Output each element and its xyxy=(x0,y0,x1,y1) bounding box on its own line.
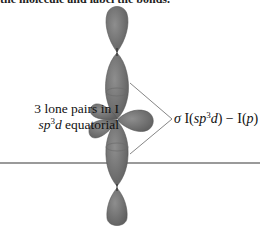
bottom-outer-lobe xyxy=(107,188,127,226)
lone-pair-label: 3 lone pairs in I sp3d equatorial xyxy=(5,101,119,133)
right-lone-pair-lobe xyxy=(118,110,153,132)
lone-pair-label-line1: 3 lone pairs in I xyxy=(34,101,119,116)
sigma-bond-label: σ I(sp3d) − I(p) xyxy=(174,111,258,127)
top-outer-lobe xyxy=(106,7,128,53)
